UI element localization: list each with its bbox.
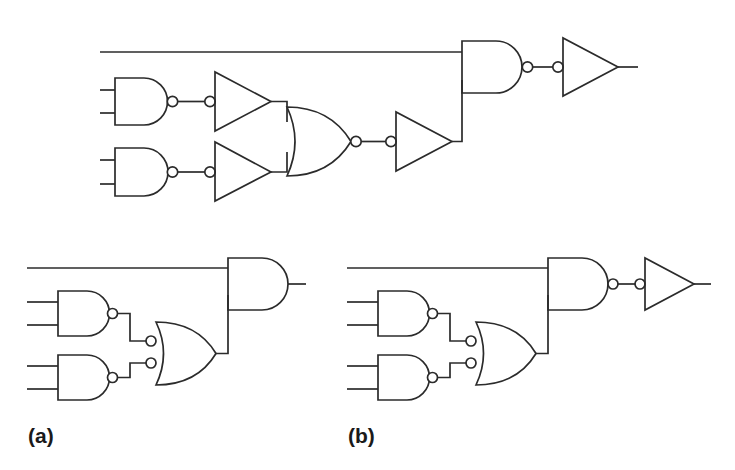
nand-body	[58, 355, 110, 400]
nand-output-bubble	[167, 167, 177, 177]
buffer-triangle	[396, 112, 452, 171]
gate-a-nand-bottom-left	[27, 355, 118, 400]
or-input-bubble-2	[466, 358, 476, 368]
gate-nand-final	[462, 41, 533, 93]
and-body	[228, 258, 288, 310]
nand-output-bubble	[522, 62, 532, 72]
wire-a-or-to-and-in2	[216, 295, 228, 354]
or-body	[476, 322, 536, 385]
nand-output-bubble	[608, 279, 618, 289]
wire-a-nand2-to-or-in2	[118, 363, 148, 378]
or-input-bubble-1	[466, 336, 476, 346]
wire-b-or-to-nand-in2	[536, 295, 548, 354]
nand-body	[115, 78, 167, 125]
gate-a-nand-top-left	[27, 291, 118, 336]
circuit-canvas: (a)	[0, 0, 735, 470]
nand-body	[548, 258, 608, 310]
wire-buffer1-to-nor-in1	[271, 102, 287, 123]
panel-label-b: (b)	[348, 424, 375, 447]
gate-nand-top-left	[100, 78, 178, 125]
nand-body	[115, 148, 168, 196]
gate-b-buffer-output	[635, 258, 694, 310]
buffer-triangle	[215, 142, 271, 201]
wire-buffer3-to-nand-final-in2	[452, 80, 462, 142]
gate-buffer-lower	[205, 142, 271, 201]
buffer-input-bubble	[205, 96, 215, 106]
buffer-triangle	[563, 38, 618, 96]
nor-body	[287, 107, 351, 176]
nand-body	[378, 291, 430, 336]
panel-top-circuit	[100, 38, 638, 201]
gate-a-or-bubbled	[146, 322, 216, 385]
gate-buffer-middle	[386, 112, 452, 171]
gate-buffer-output	[553, 38, 618, 96]
panel-a-circuit: (a)	[27, 258, 306, 447]
or-input-bubble-1	[146, 336, 156, 346]
gate-nor-middle	[287, 107, 361, 176]
nor-output-bubble	[351, 136, 361, 146]
buffer-triangle	[215, 72, 271, 131]
nand-output-bubble	[428, 309, 438, 319]
panel-label-a: (a)	[28, 424, 54, 447]
buffer-input-bubble	[553, 62, 563, 72]
nand-output-bubble	[108, 309, 118, 319]
buffer-input-bubble	[635, 279, 645, 289]
gate-b-nand-bottom-left	[347, 355, 438, 400]
buffer-input-bubble	[386, 136, 396, 146]
wire-a-nand1-to-or-in1	[118, 314, 148, 342]
logic-diagram-figure: (a)	[0, 0, 735, 470]
wire-b-nand2-to-or-in2	[438, 363, 468, 378]
gate-buffer-upper	[205, 72, 271, 131]
gate-b-nand-top-left	[347, 291, 438, 336]
nand-body	[58, 291, 110, 336]
or-input-bubble-2	[146, 358, 156, 368]
nand-body	[378, 355, 430, 400]
gate-b-or-bubbled	[466, 322, 536, 385]
nand-output-bubble	[167, 96, 177, 106]
wire-b-nand1-to-or-in1	[438, 314, 468, 342]
nand-output-bubble	[428, 373, 438, 383]
or-body	[156, 322, 216, 385]
gate-b-nand-final	[548, 258, 618, 310]
nand-body	[462, 41, 522, 93]
buffer-input-bubble	[205, 167, 215, 177]
nand-output-bubble	[108, 373, 118, 383]
buffer-triangle	[645, 258, 694, 310]
gate-nand-bottom-left	[100, 148, 178, 196]
wire-buffer2-to-nor-in2	[271, 152, 287, 172]
panel-b-circuit: (b)	[347, 258, 711, 447]
gate-a-and-final	[228, 258, 288, 310]
